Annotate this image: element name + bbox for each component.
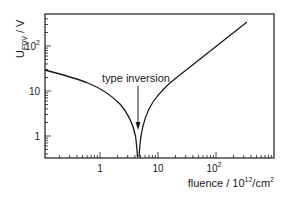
data-curve [45,22,247,157]
y-ticks [45,19,51,154]
chart: 102 10 1 1 10 102 fluence / 1012/cm2 UFD… [0,0,289,203]
x-tick-label-10: 10 [152,163,164,174]
plot-frame [45,14,274,158]
x-axis-title: fluence / 1012/cm2 [188,176,274,189]
y-tick-label-1: 1 [34,131,40,142]
x-ticks [60,152,272,158]
x-tick-label-100: 102 [206,161,221,174]
y-tick-label-10: 10 [29,86,41,97]
annotation-type-inversion: type inversion [102,72,170,84]
y-axis-title: UFDV / V [14,19,28,58]
annotation-arrow-head-icon [136,122,141,130]
x-tick-label-1: 1 [97,163,103,174]
